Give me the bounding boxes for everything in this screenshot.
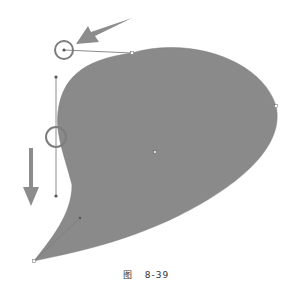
handle-point-top[interactable] [62, 48, 65, 51]
anchor-point-tip[interactable] [33, 260, 36, 263]
teardrop-shape [34, 48, 277, 261]
anchor-point-right[interactable] [275, 105, 278, 108]
caption-number: 8-39 [145, 270, 169, 280]
arrow-pointing-down-left-icon [76, 18, 132, 44]
bezier-diagram [0, 0, 292, 286]
center-point [154, 151, 157, 154]
anchor-point-top[interactable] [131, 52, 134, 55]
figure-caption: 图 8-39 [0, 268, 292, 281]
arrow-pointing-down-icon [23, 148, 39, 206]
caption-prefix: 图 [123, 270, 133, 280]
handle-point-left-bottom[interactable] [54, 194, 57, 197]
handle-point-left-top[interactable] [54, 75, 57, 78]
top-handle-line [64, 50, 132, 53]
handle-point-inner[interactable] [79, 217, 81, 219]
